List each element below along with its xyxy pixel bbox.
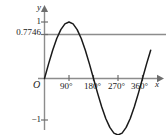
x-tick-label-360: 360° bbox=[131, 82, 148, 91]
y-tick-label-one: 1 bbox=[37, 17, 42, 26]
x-tick-label-180: 180° bbox=[84, 82, 101, 91]
sine-curve-figure: 1 0.7746 −1 90° 180° 270° 360° y x O bbox=[0, 0, 167, 135]
y-tick-label-neg-one: −1 bbox=[31, 115, 41, 124]
plot-area bbox=[0, 0, 167, 135]
x-tick-label-270: 270° bbox=[108, 82, 125, 91]
y-tick-label-threshold: 0.7746 bbox=[16, 28, 41, 37]
y-axis-label: y bbox=[37, 3, 41, 12]
y-axis-arrowhead bbox=[41, 5, 48, 12]
x-axis-label: x bbox=[155, 80, 159, 89]
origin-label: O bbox=[33, 80, 40, 90]
x-tick-label-90: 90° bbox=[60, 82, 73, 91]
